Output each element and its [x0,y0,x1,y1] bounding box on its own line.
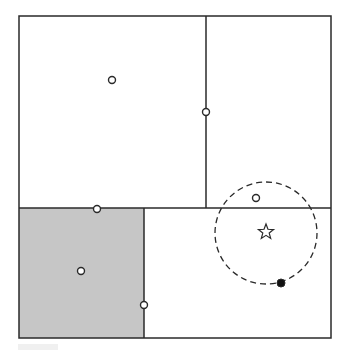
point-p-near-query [253,195,260,202]
point-p-top-divider [203,109,210,116]
nearest-neighbor-point [277,279,285,287]
point-p-top-left [109,77,116,84]
partition-diagram [0,0,349,354]
point-p-shaded-cell [78,268,85,275]
point-p-bottom-divider [141,302,148,309]
query-star-icon [258,224,273,238]
point-p-horizontal-divider [94,206,101,213]
caption-fragment [18,344,58,350]
